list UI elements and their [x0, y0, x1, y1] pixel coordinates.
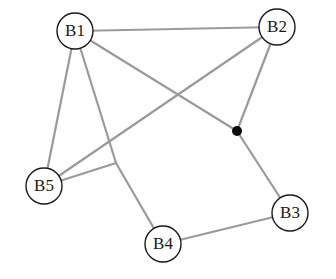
edge-b1-b2: [75, 27, 277, 31]
nodes-layer: [26, 9, 308, 262]
node-label-b1: B1: [55, 19, 95, 43]
node-label-b5: B5: [24, 174, 64, 198]
node-label-b2: B2: [257, 15, 297, 39]
node-label-b3: B3: [270, 201, 310, 225]
edge-b1-b4: [75, 31, 163, 244]
edge-b1-b5: [44, 31, 75, 186]
junctions-layer: [232, 126, 242, 136]
node-label-b4: B4: [143, 232, 183, 256]
edges-layer: [44, 27, 290, 244]
edge-b1-j1: [75, 31, 237, 131]
edge-b2-b5: [44, 27, 277, 186]
junction-dot: [232, 126, 242, 136]
